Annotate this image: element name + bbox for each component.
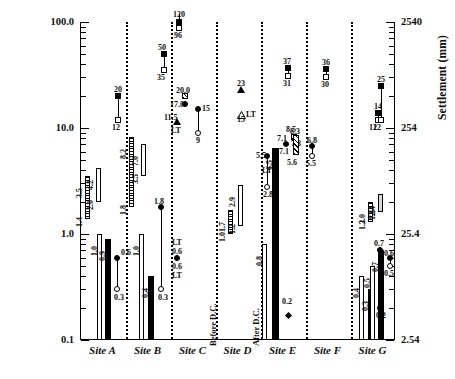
axis-tick-major [81, 22, 89, 23]
axis-tick-minor [389, 244, 394, 245]
site-label: Site B [125, 344, 170, 356]
marker-filled-circle [114, 255, 120, 261]
marker-open-circle [114, 286, 120, 292]
value-label-high: 7.0 [131, 156, 140, 166]
axis-tick-minor [389, 38, 394, 39]
marker-open-circle [158, 286, 164, 292]
axis-tick-minor [389, 96, 394, 97]
value-label: 20.0 [176, 86, 190, 95]
lt-label: LT [246, 110, 256, 119]
value-label-low: 1.4 [75, 217, 84, 227]
y-tick-label-left: 0.1 [18, 334, 74, 345]
value-label: 23 [237, 79, 245, 88]
value-label-bar: 0.8 [255, 256, 264, 266]
axis-tick-minor [389, 77, 394, 78]
value-label: 17.0 [170, 100, 184, 109]
axis-tick-minor [81, 96, 86, 97]
value-label: 15 [237, 115, 245, 124]
site-label: Site E [260, 344, 305, 356]
value-label-high: 8.5 [286, 125, 296, 134]
value-label-low: 0.3 [158, 293, 168, 302]
axis-tick-minor [81, 152, 86, 153]
value-label: 0.2 [282, 297, 292, 306]
range-bar-hatched-diagonal [293, 135, 299, 154]
y-tick-label-right: 25.4 [401, 228, 419, 239]
range-bar-open [238, 185, 243, 226]
column-bar-solid [148, 276, 154, 340]
value-label-bar: 6.5 [265, 160, 274, 170]
value-label-low: 12 [112, 123, 120, 132]
y-axis-title-right: Settlement (mm) [436, 35, 448, 120]
value-label-bar: 0.7 [371, 262, 380, 272]
axis-tick-minor [389, 289, 394, 290]
axis-tick-minor [81, 289, 86, 290]
value-label-low: 5.6 [287, 158, 297, 167]
chart-canvas: Settlement (in) Settlement (mm) 1.43.52.… [0, 0, 455, 379]
value-label-high: 0.6 [121, 248, 131, 257]
value-label-low: 1.8 [119, 205, 128, 215]
value-label-low: 30 [321, 80, 329, 89]
value-label-bar: 0.5 [363, 278, 372, 288]
value-label: 0.6 [172, 262, 182, 271]
site-label: Site F [305, 344, 350, 356]
axis-tick-minor [389, 152, 394, 153]
axis-tick-minor [389, 308, 394, 309]
y-tick-label-right: 2540 [401, 16, 422, 27]
site-separator [306, 22, 308, 339]
value-label-low: 2.0 [86, 200, 95, 210]
value-label-low: 1.0 [218, 232, 227, 242]
axis-tick-minor [81, 133, 86, 134]
site-separator [171, 22, 173, 339]
lt-label: LT [172, 271, 182, 280]
site-label: Site D [215, 344, 260, 356]
value-label-low: 1.2 [228, 224, 237, 234]
axis-tick-minor [81, 144, 86, 145]
value-label-high: 0.6 [384, 249, 394, 258]
axis-tick-minor [81, 27, 86, 28]
value-label-high: 1.7 [218, 222, 227, 232]
value-label-high: 15 [202, 104, 210, 113]
axis-tick-minor [389, 46, 394, 47]
lt-label: LT [172, 238, 182, 247]
value-label-low: 35 [157, 73, 165, 82]
axis-tick-minor [389, 183, 394, 184]
y-tick-label-left: 100.0 [18, 16, 74, 27]
axis-tick-minor [389, 144, 394, 145]
axis-tick-minor [389, 202, 394, 203]
y-tick-label-right: 2.54 [401, 334, 419, 345]
axis-tick-major [386, 22, 394, 23]
value-label: 7.1 [279, 147, 289, 156]
axis-tick-minor [389, 27, 394, 28]
y-tick-label-left: 1.0 [18, 228, 74, 239]
value-label-bar: 0.4 [352, 288, 361, 298]
range-bar-hatched [129, 137, 134, 207]
value-label-high: 2.9 [228, 197, 237, 207]
axis-tick-minor [389, 32, 394, 33]
range-bar-grey [378, 194, 383, 213]
axis-tick-major [81, 128, 89, 129]
value-label-high: 50 [158, 43, 166, 52]
value-label-high: 20 [114, 85, 122, 94]
stem-line [117, 258, 118, 290]
y-tick-label-right: 254 [401, 122, 417, 133]
axis-tick-major [81, 340, 89, 341]
axis-tick-minor [389, 64, 394, 65]
before-dc-label: Before D.C. [208, 303, 218, 346]
site-label: Site C [170, 344, 215, 356]
axis-tick-minor [389, 170, 394, 171]
axis-tick-major [386, 234, 394, 235]
axis-tick-minor [81, 64, 86, 65]
axis-tick-minor [81, 266, 86, 267]
axis-tick-minor [81, 244, 86, 245]
axis-tick-minor [389, 160, 394, 161]
value-label-high: 3.5 [75, 188, 84, 198]
axis-tick-major [386, 128, 394, 129]
value-label: 11.5 [164, 113, 178, 122]
marker-filled-circle [195, 106, 201, 112]
value-label-bar: 0.3 [361, 301, 370, 311]
value-label-low: 0.5 [384, 269, 394, 278]
axis-tick-minor [389, 133, 394, 134]
axis-tick-minor [81, 77, 86, 78]
value-label-high: 37 [283, 57, 291, 66]
after-dc-label: After D.C. [251, 308, 261, 346]
